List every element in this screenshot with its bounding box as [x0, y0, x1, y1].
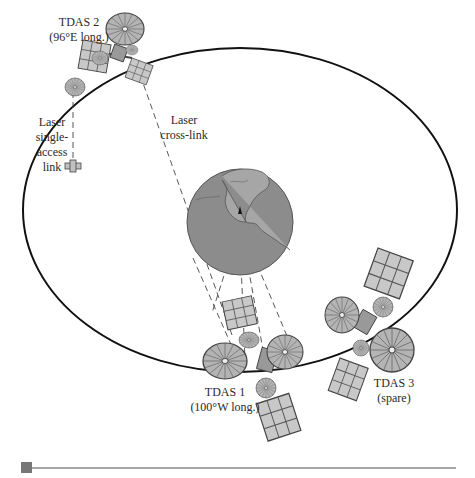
tdas3-name: TDAS 3: [366, 376, 422, 391]
single-access-line2: single-: [30, 130, 74, 145]
label-tdas3: TDAS 3 (spare): [366, 376, 422, 406]
single-access-line3: access: [30, 145, 74, 160]
cross-link-line2: cross-link: [152, 128, 216, 143]
single-access-line1: Laser: [30, 115, 74, 130]
tdas1-position: (100°W long.): [190, 400, 260, 415]
tdas1-name: TDAS 1: [190, 385, 260, 400]
tdas2-name: TDAS 2: [44, 15, 114, 30]
label-tdas1: TDAS 1 (100°W long.): [190, 385, 260, 415]
single-access-line4: link: [30, 160, 74, 175]
tdas2-position: (96°E long.): [44, 30, 114, 45]
label-tdas2: TDAS 2 (96°E long.): [44, 15, 114, 45]
label-single-access-link: Laser single- access link: [30, 115, 74, 175]
label-cross-link: Laser cross-link: [152, 113, 216, 143]
cross-link-line1: Laser: [152, 113, 216, 128]
rule-marker: [21, 462, 32, 473]
tdas3-position: (spare): [366, 391, 422, 406]
satellite-tdas1: [203, 296, 303, 441]
earth-globe: [187, 169, 293, 275]
